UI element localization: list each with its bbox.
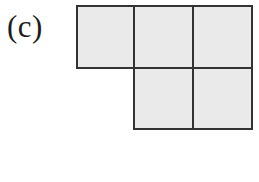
cell-r1-c1 (134, 68, 193, 129)
cell-r1-c2 (193, 68, 252, 129)
cell-r0-c2 (193, 6, 252, 68)
polyomino-svg (76, 5, 254, 130)
cell-r0-c0 (77, 6, 134, 68)
figure-container: (c) (0, 0, 259, 182)
cell-r0-c1 (134, 6, 193, 68)
polyomino-diagram (76, 5, 254, 130)
panel-label: (c) (7, 8, 43, 46)
